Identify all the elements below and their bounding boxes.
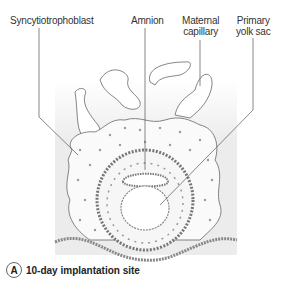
label-primary-yolk-sac-line2: yolk sac [236,26,271,37]
panel-letter-badge: A [6,262,22,278]
label-primary-yolk-sac: Primary yolk sac [236,15,271,37]
implantation-diagram [0,0,284,293]
label-primary-yolk-sac-line1: Primary [236,15,271,26]
caption-text: 10-day implantation site [26,265,140,276]
label-maternal-capillary-line2: capillary [182,26,219,37]
primary-yolk-sac [121,186,169,230]
label-maternal-capillary-line1: Maternal [182,15,219,26]
figure-caption: A 10-day implantation site [6,262,140,278]
label-syncytiotrophoblast: Syncytiotrophoblast [10,15,93,26]
label-maternal-capillary: Maternal capillary [182,15,219,37]
label-amnion: Amnion [131,15,164,26]
